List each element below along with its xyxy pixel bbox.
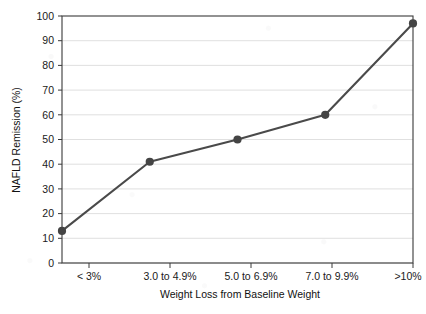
x-tick-label-3: 7.0 to 9.9% [305, 270, 358, 282]
data-point [233, 135, 241, 143]
y-tick-label-80: 80 [42, 59, 54, 71]
y-tick-label-40: 40 [42, 158, 54, 170]
data-point [58, 227, 66, 235]
y-tick-label-20: 20 [42, 207, 54, 219]
y-axis-title: NAFLD Remission (%) [10, 87, 22, 193]
data-point [321, 111, 329, 119]
data-point [409, 19, 417, 27]
y-tick-label-50: 50 [42, 133, 54, 145]
chart-figure: 0 10 20 30 40 50 60 70 80 90 100 < 3% 3.… [0, 0, 426, 314]
x-tick-label-4: >10% [394, 270, 421, 282]
x-tick-label-0: < 3% [77, 270, 101, 282]
y-tick-label-10: 10 [42, 232, 54, 244]
x-axis-title: Weight Loss from Baseline Weight [160, 288, 320, 300]
y-tick-label-90: 90 [42, 34, 54, 46]
chart-background [0, 0, 426, 314]
y-tick-label-70: 70 [42, 84, 54, 96]
data-point [146, 158, 154, 166]
y-tick-label-0: 0 [48, 257, 54, 269]
x-tick-label-2: 5.0 to 6.9% [224, 270, 277, 282]
y-tick-label-30: 30 [42, 183, 54, 195]
y-tick-label-60: 60 [42, 109, 54, 121]
y-tick-label-100: 100 [36, 10, 54, 22]
x-tick-label-1: 3.0 to 4.9% [143, 270, 196, 282]
line-chart-svg: 0 10 20 30 40 50 60 70 80 90 100 < 3% 3.… [0, 0, 426, 314]
